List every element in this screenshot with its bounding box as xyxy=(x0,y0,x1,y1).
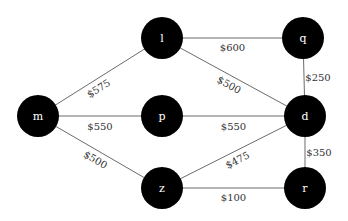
node-label-q: q xyxy=(299,32,306,45)
edge-label-d-r: $350 xyxy=(306,147,331,158)
node-label-z: z xyxy=(159,182,165,195)
network-graph: $575$550$500$600$500$550$250$475$350$100… xyxy=(0,0,348,221)
node-label-p: p xyxy=(158,110,165,123)
node-l: l xyxy=(141,17,183,59)
edge-label-z-d: $475 xyxy=(224,149,252,170)
node-z: z xyxy=(141,167,183,209)
node-d: d xyxy=(284,95,326,137)
edge-label-q-d: $250 xyxy=(305,72,330,83)
edge-label-m-l: $575 xyxy=(85,77,112,100)
edge-m-l xyxy=(38,38,162,116)
node-label-d: d xyxy=(301,110,308,123)
edge-label-m-p: $550 xyxy=(87,121,112,132)
edge-label-l-d: $500 xyxy=(215,74,243,96)
node-label-l: l xyxy=(160,32,164,45)
node-r: r xyxy=(284,167,326,209)
node-p: p xyxy=(141,95,183,137)
edge-label-m-z: $500 xyxy=(82,149,110,171)
edge-label-z-r: $100 xyxy=(221,192,246,203)
node-label-r: r xyxy=(302,182,308,195)
node-label-m: m xyxy=(33,110,44,123)
edge-label-p-d: $550 xyxy=(221,121,246,132)
edge-label-l-q: $600 xyxy=(220,42,245,53)
node-q: q xyxy=(282,17,324,59)
node-m: m xyxy=(17,95,59,137)
nodes-layer: lqmpdzr xyxy=(17,17,326,209)
